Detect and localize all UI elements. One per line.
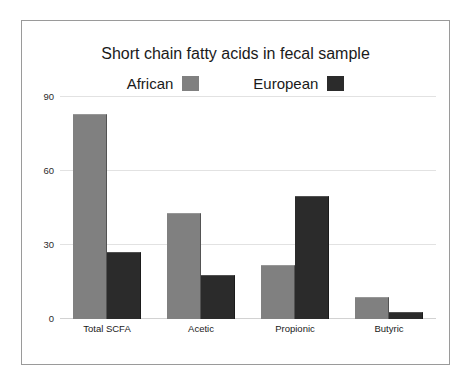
chart-title: Short chain fatty acids in fecal sample bbox=[22, 45, 449, 63]
bar-group-propionic: Propionic bbox=[261, 97, 329, 319]
x-axis-category-label: Propionic bbox=[261, 323, 329, 334]
legend-label-european: European bbox=[253, 75, 318, 92]
legend-swatch-african bbox=[182, 76, 199, 91]
x-axis-category-label: Acetic bbox=[167, 323, 235, 334]
bar-european-butyric bbox=[389, 312, 423, 319]
plot-area: 0306090 Total SCFAAceticPropionicButyric bbox=[60, 97, 436, 319]
bar-european-propionic bbox=[295, 196, 329, 319]
legend-label-african: African bbox=[127, 75, 174, 92]
bar-group-butyric: Butyric bbox=[355, 97, 423, 319]
bars-layer: Total SCFAAceticPropionicButyric bbox=[60, 97, 436, 319]
bar-group-acetic: Acetic bbox=[167, 97, 235, 319]
y-axis-tick-label: 90 bbox=[43, 91, 54, 102]
bar-african-propionic bbox=[261, 265, 295, 319]
bar-african-acetic bbox=[167, 213, 201, 319]
legend-item-african: African bbox=[127, 75, 200, 92]
legend-item-european: European bbox=[253, 75, 344, 92]
chart-legend: African European bbox=[22, 75, 449, 92]
y-axis-tick-label: 30 bbox=[43, 239, 54, 250]
bar-european-acetic bbox=[201, 275, 235, 319]
legend-swatch-european bbox=[327, 76, 344, 91]
x-axis-category-label: Butyric bbox=[355, 323, 423, 334]
y-axis-tick-label: 60 bbox=[43, 165, 54, 176]
bar-african-total-scfa bbox=[73, 114, 107, 319]
figure-frame: Short chain fatty acids in fecal sample … bbox=[21, 20, 450, 365]
bar-african-butyric bbox=[355, 297, 389, 319]
x-axis-category-label: Total SCFA bbox=[73, 323, 141, 334]
bar-group-total-scfa: Total SCFA bbox=[73, 97, 141, 319]
y-axis-tick-label: 0 bbox=[49, 313, 54, 324]
bar-european-total-scfa bbox=[107, 252, 141, 319]
